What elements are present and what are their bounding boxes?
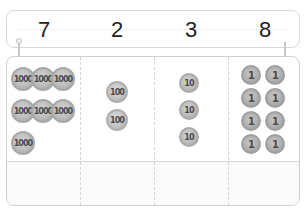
coin-1-icon: 1 [241,134,261,154]
coin-100-icon: 100 [106,81,128,103]
digit-box: 7 2 3 8 [6,10,300,48]
coin-1-icon: 1 [265,111,285,131]
column-divider-1 [80,57,81,205]
coin-1000-icon: 1000 [11,131,35,155]
coin-1-icon: 1 [241,65,261,85]
digit-hundreds: 2 [80,19,154,41]
coin-1000-icon: 1000 [51,67,75,91]
coin-1-icon: 1 [241,88,261,108]
column-divider-3 [228,57,229,205]
row-separator [7,161,299,162]
coin-1-icon: 1 [265,65,285,85]
coin-10-icon: 10 [179,73,199,93]
column-divider-2 [154,57,155,205]
coin-10-icon: 10 [179,127,199,147]
coin-10-icon: 10 [179,100,199,120]
digit-ones: 8 [228,19,302,41]
coin-chart: 1000 1000 1000 1000 1000 1000 1000 100 1… [6,56,300,206]
coin-100-icon: 100 [106,109,128,131]
coin-1000-icon: 1000 [51,99,75,123]
left-pin-head [16,38,22,44]
coin-1-icon: 1 [265,134,285,154]
coin-1-icon: 1 [265,88,285,108]
digit-tens: 3 [154,19,228,41]
answer-row [7,162,299,205]
coin-1-icon: 1 [241,111,261,131]
